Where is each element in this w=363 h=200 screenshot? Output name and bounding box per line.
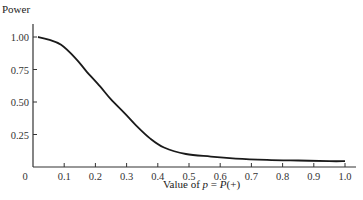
y-tick-label: 0.25 [11,130,29,141]
y-tick-label: 0.75 [11,65,29,76]
x-axis-title-prefix: Value of [163,178,203,190]
x-axis-title: Value of p = P(+) [0,178,363,190]
power-curve-line [38,37,345,161]
x-axis-title-func: P [220,178,227,190]
x-axis-title-suffix: (+) [227,178,241,190]
y-tick-label: 1.00 [11,32,29,43]
axes [33,24,356,167]
x-axis-title-eq: = [208,178,220,190]
power-curve-chart: 00.10.20.30.40.50.60.70.80.91.0 0.250.50… [0,0,363,200]
y-tick-label: 0.50 [11,97,29,108]
